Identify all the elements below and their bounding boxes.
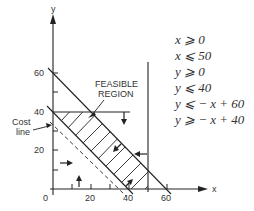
y-tick-40: 40 xyxy=(34,107,44,117)
cost-line-label-line2: line xyxy=(16,127,30,137)
feasible-region-label-line2: REGION xyxy=(98,89,134,99)
x-tick-20: 20 xyxy=(85,193,95,203)
x-tick-40: 40 xyxy=(123,193,133,203)
line-y-ge-neg-x-plus-40 xyxy=(47,106,133,194)
constraint-6: y ⩾ − x + 40 xyxy=(173,112,245,127)
constraint-3: y ⩾ 0 xyxy=(173,64,205,79)
constraint-4: y ⩽ 40 xyxy=(173,80,212,95)
x-tick-60: 60 xyxy=(161,193,171,203)
constraint-5: y ⩽ − x + 60 xyxy=(173,96,245,111)
x-ticks xyxy=(72,184,167,189)
x-axis-label: x xyxy=(212,184,217,194)
cost-line-label-line1: Cost xyxy=(12,117,31,127)
cost-line-pointer xyxy=(33,123,52,130)
y-axis xyxy=(50,14,56,195)
feasible-region-label-line1: FEASIBLE xyxy=(95,79,138,89)
y-tick-60: 60 xyxy=(34,68,44,78)
constraint-1: x ⩾ 0 xyxy=(174,32,205,47)
constraint-2: x ⩽ 50 xyxy=(174,48,212,63)
feasible-region-hatching xyxy=(53,104,162,198)
constraints-list: x ⩾ 0 x ⩽ 50 y ⩾ 0 y ⩽ 40 y ⩽ − x + 60 y… xyxy=(173,32,245,127)
y-tick-20: 20 xyxy=(34,145,44,155)
y-axis-label: y xyxy=(51,4,56,14)
feasible-region-pointer xyxy=(88,100,104,118)
constraint-direction-arrows xyxy=(60,112,147,187)
cost-line xyxy=(50,122,126,196)
linear-programming-diagram: y x 60 40 20 0 20 40 60 xyxy=(0,0,254,211)
y-ticks xyxy=(53,73,58,170)
x-tick-0: 0 xyxy=(43,193,48,203)
